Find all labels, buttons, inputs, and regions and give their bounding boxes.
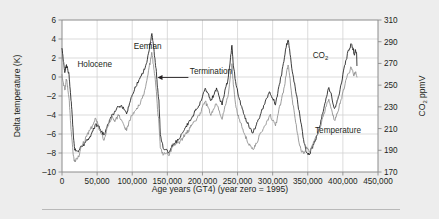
ticklabel-left: –10 <box>42 168 56 177</box>
ticklabel-left: –6 <box>47 130 57 139</box>
ticklabel-bottom: 350,000 <box>293 177 323 186</box>
annotation-termination: Termination <box>190 67 233 76</box>
caption-divider <box>42 209 400 210</box>
ticklabel-left: –8 <box>47 149 57 158</box>
ticklabel-bottom: 400,000 <box>328 177 358 186</box>
ticklabel-left: 4 <box>51 35 56 44</box>
ticklabel-left: –2 <box>47 92 57 101</box>
ticklabel-right: 290 <box>384 38 398 47</box>
x-axis-title: Age years (GT4) (year zero = 1995) <box>152 184 289 194</box>
left-axis-ticks <box>59 20 63 172</box>
ticklabel-bottom: 0 <box>60 177 65 186</box>
ticklabel-right: 170 <box>384 168 398 177</box>
ticklabel-right: 250 <box>384 81 398 90</box>
ticklabel-left: –4 <box>47 111 57 120</box>
figure: –10–8–6–4–20246 170190210230250270290310… <box>0 0 439 219</box>
left-axis-ticklabels: –10–8–6–4–20246 <box>42 16 56 177</box>
ticklabel-right: 270 <box>384 59 398 68</box>
ticklabel-right: 190 <box>384 146 398 155</box>
ticklabel-left: 6 <box>51 16 56 25</box>
ticklabel-bottom: 450,000 <box>363 177 393 186</box>
ticklabel-left: 0 <box>51 73 56 82</box>
y2-title-tail: ppmV <box>417 75 427 100</box>
chart-container: –10–8–6–4–20246 170190210230250270290310… <box>0 0 439 196</box>
ticklabel-right: 310 <box>384 16 398 25</box>
y-axis-title: Delta temperature (K) <box>12 55 22 138</box>
annotation-temperature: Temperature <box>315 126 361 135</box>
annotation-co2-main: CO <box>313 51 325 60</box>
ticklabel-bottom: 50,000 <box>85 177 110 186</box>
y2-axis-title: CO2 ppmV <box>417 75 428 116</box>
annotation-holocene: Holocene <box>77 60 112 69</box>
ticklabel-left: 2 <box>51 54 56 63</box>
annotation-eemian: Eemian <box>134 42 162 51</box>
right-axis-ticks <box>378 20 382 172</box>
bottom-axis-ticks <box>62 172 378 176</box>
ticklabel-right: 230 <box>384 103 398 112</box>
vostok-ice-core-chart: –10–8–6–4–20246 170190210230250270290310… <box>0 0 439 196</box>
ticklabel-right: 210 <box>384 125 398 134</box>
y2-title-main: CO <box>417 103 427 116</box>
ticklabel-bottom: 100,000 <box>117 177 147 186</box>
annotation-co2-subscript: 2 <box>325 55 328 61</box>
right-axis-ticklabels: 170190210230250270290310 <box>384 16 398 177</box>
